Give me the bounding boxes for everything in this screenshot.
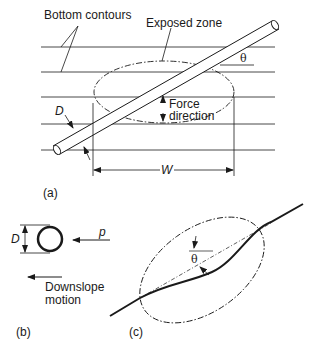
pipe	[52, 19, 280, 156]
panel-a-label: (a)	[43, 187, 58, 200]
exposed-zone-label: Exposed zone	[146, 17, 222, 30]
panel-a-drawing	[41, 19, 280, 176]
panel-b-label: (b)	[16, 326, 31, 339]
original-pipe-axis	[140, 223, 271, 298]
theta-label-c: θ	[191, 253, 198, 266]
bottom-contours-label: Bottom contours	[44, 9, 131, 22]
force-direction-label-line2: direction	[169, 110, 214, 123]
panel-c-label: (c)	[129, 326, 143, 339]
force-label-p: p	[99, 226, 106, 239]
panel-c-drawing	[110, 195, 303, 344]
downslope-label-line2: motion	[45, 294, 81, 307]
diameter-label-a: D	[55, 105, 64, 118]
width-label: W	[161, 164, 172, 177]
exposed-zone-ellipse-c	[121, 195, 284, 344]
theta-label-a: θ	[240, 52, 247, 65]
panel-b-drawing	[20, 225, 110, 277]
pipe-cross-section	[38, 227, 62, 251]
diameter-label-b: D	[11, 233, 20, 246]
